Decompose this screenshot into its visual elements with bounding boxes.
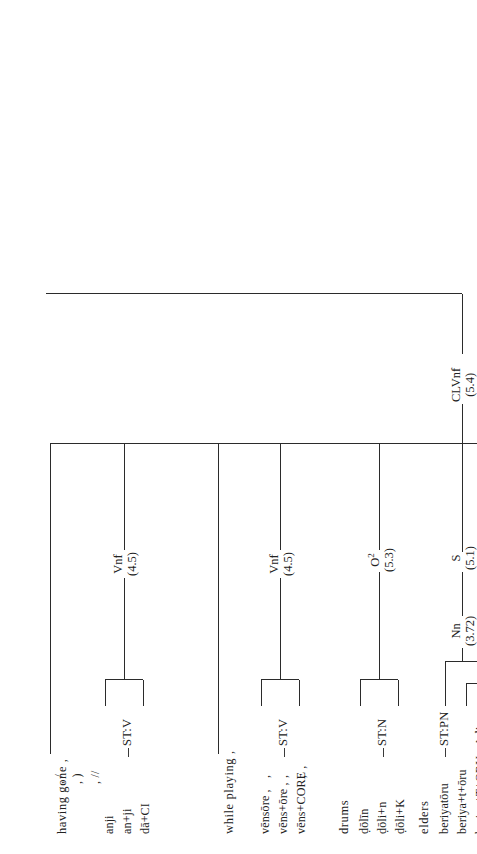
join-out-gone bbox=[124, 578, 125, 680]
tag-having-gone: ST:V bbox=[120, 719, 135, 746]
node-vnf-playing-number: (4.5) bbox=[281, 552, 295, 576]
tag-elders-stpn: ST:PN bbox=[437, 712, 452, 746]
marker-playing-3: , bbox=[294, 775, 309, 778]
root-output-branch bbox=[462, 404, 463, 444]
node-root-clvnf-number: (5.4) bbox=[463, 368, 477, 402]
tag-elders-adj: Adj bbox=[473, 727, 477, 746]
node-nn-elders: Nn (3.72) bbox=[449, 616, 477, 646]
node-vnf-playing-label: Vnf bbox=[267, 552, 281, 576]
tick-elders-stpn bbox=[445, 748, 446, 757]
branch-playing-bot bbox=[299, 680, 300, 706]
branch-adj-top bbox=[466, 684, 467, 706]
marker-gone-2: , ) bbox=[70, 773, 85, 784]
node-s-elders: S (5.1) bbox=[449, 546, 477, 570]
node-root-clvnf: CLVnf (5.4) bbox=[449, 368, 477, 402]
morph-having-gone-2: an+ji bbox=[120, 808, 135, 834]
tick-having-gone bbox=[128, 748, 129, 757]
join-bar-nn-2 bbox=[445, 661, 477, 662]
parse-tree-figure: yak tail /... jallaka (... jallaka //...… bbox=[0, 0, 477, 854]
gloss-while-playing: while playing , bbox=[222, 750, 237, 834]
node-o2-drums-number: (5.3) bbox=[382, 548, 396, 572]
morph-while-playing-1: vēnsōre , bbox=[258, 789, 273, 834]
branch-gone-bot bbox=[143, 680, 144, 706]
marker-playing-2: , bbox=[276, 775, 291, 778]
branch-playing-marker-to-spine bbox=[218, 444, 219, 754]
node-root-clvnf-label: CLVnf bbox=[449, 368, 463, 402]
node-vnf-gone-label: Vnf bbox=[111, 552, 125, 576]
branch-vnf-playing-to-spine bbox=[280, 444, 281, 550]
join-bar-adj bbox=[466, 683, 477, 684]
join-out-drums bbox=[379, 572, 380, 680]
branch-gone-marker-to-spine bbox=[50, 444, 51, 754]
branch-stpn-arm bbox=[445, 662, 446, 706]
tick-drums bbox=[383, 748, 384, 757]
morph-elders-2: beriya+t+ōru bbox=[455, 769, 470, 834]
morph-while-playing-2: vēns+ōre , bbox=[276, 782, 291, 834]
join-out-playing bbox=[280, 578, 281, 680]
gloss-having-gone: having gone , bbox=[55, 759, 70, 835]
morph-drums-1: ḍōlīn bbox=[357, 809, 372, 834]
morph-elders-3: beriya+T+ORU bbox=[473, 756, 477, 834]
root-to-outer-branch bbox=[462, 294, 463, 354]
branch-nn2-to-s bbox=[462, 572, 463, 616]
marker-gone-3: , // bbox=[88, 771, 103, 784]
branch-o2-to-spine bbox=[379, 444, 380, 550]
morph-drums-3: ḍōli+K bbox=[393, 799, 408, 834]
node-nn-elders-number: (3.72) bbox=[463, 616, 477, 646]
outer-bracket bbox=[46, 293, 462, 294]
gloss-drums: drums bbox=[337, 800, 352, 834]
morph-drums-2: ḍōli+n bbox=[375, 802, 390, 834]
node-vnf-gone: Vnf (4.5) bbox=[111, 552, 139, 576]
gloss-elders: elders bbox=[417, 801, 432, 834]
tag-drums: ST:N bbox=[375, 719, 390, 746]
tick-while-playing bbox=[284, 748, 285, 757]
morph-elders-1: beriyatōru bbox=[437, 783, 452, 834]
marker-playing-1: , bbox=[258, 775, 273, 778]
main-spine-bar bbox=[50, 443, 477, 444]
morph-having-gone-3: dā+CI bbox=[138, 803, 153, 834]
node-nn-elders-label: Nn bbox=[449, 616, 463, 646]
node-o2-superscript: 2 bbox=[366, 553, 376, 558]
branch-vnf-gone-to-spine bbox=[124, 444, 125, 550]
node-s-elders-label: S bbox=[449, 546, 463, 570]
tag-while-playing: ST:V bbox=[276, 719, 291, 746]
branch-s-elders-to-spine bbox=[462, 444, 463, 552]
node-o2-drums-label: O2 bbox=[366, 548, 382, 572]
branch-drums-bot bbox=[398, 680, 399, 706]
node-vnf-playing: Vnf (4.5) bbox=[267, 552, 295, 576]
branch-gone-top bbox=[105, 680, 106, 706]
node-o2-drums: O2 (5.3) bbox=[366, 548, 396, 572]
join-out-nn-2 bbox=[462, 648, 463, 662]
branch-playing-top bbox=[261, 680, 262, 706]
node-vnf-gone-number: (4.5) bbox=[125, 552, 139, 576]
marker-gone-1: , / bbox=[52, 774, 67, 784]
morph-having-gone-1: anji bbox=[102, 815, 117, 834]
branch-drums-top bbox=[360, 680, 361, 706]
node-s-elders-number: (5.1) bbox=[463, 546, 477, 570]
